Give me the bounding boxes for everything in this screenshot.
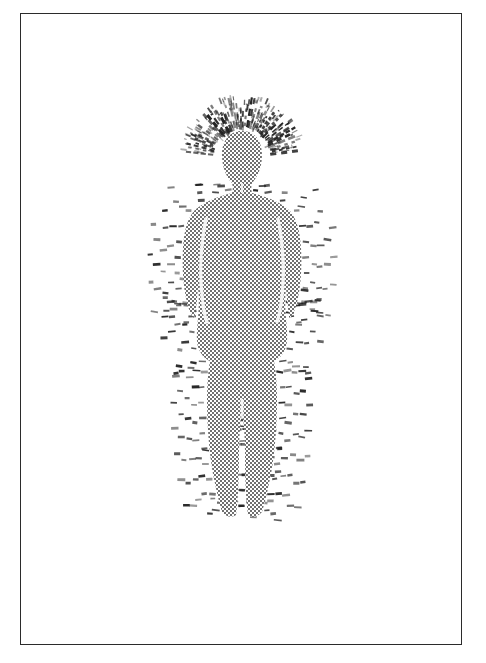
aura-dash	[310, 246, 316, 247]
aura-dash	[280, 200, 285, 201]
halo-speckle	[253, 129, 254, 132]
aura-dash	[317, 266, 323, 267]
aura-dash	[209, 494, 216, 495]
aura-dash	[276, 448, 282, 449]
halo-ray	[241, 106, 242, 130]
aura-dash	[317, 315, 324, 316]
aura-dash	[294, 393, 300, 394]
illustration-page	[0, 0, 486, 663]
aura-dash	[310, 282, 315, 283]
aura-dash	[280, 476, 286, 477]
halo-speckle	[208, 108, 211, 113]
aura-dash	[148, 254, 153, 255]
aura-dash	[185, 418, 191, 419]
aura-dash	[174, 373, 179, 374]
halo-speckle	[283, 150, 290, 151]
halo-speckle	[258, 97, 259, 100]
halo-speckle	[257, 126, 258, 128]
aura-dash	[182, 303, 187, 304]
aura-dash	[329, 227, 336, 228]
halo-speckle	[271, 106, 275, 112]
halo-speckle	[224, 97, 225, 100]
halo-speckle	[257, 100, 258, 104]
aura-dash	[181, 342, 189, 343]
halo-speckle	[197, 152, 204, 153]
halo-speckle	[222, 99, 223, 103]
halo-speckle	[194, 151, 199, 152]
aura-dash	[160, 250, 167, 251]
aura-dash	[303, 241, 309, 242]
aura-dash	[301, 290, 309, 291]
aura-dash	[189, 459, 196, 460]
aura-dash	[330, 257, 337, 258]
aura-dash	[177, 350, 182, 351]
aura-dash	[201, 448, 207, 449]
aura-dash	[288, 362, 293, 363]
halo-speckle	[187, 127, 193, 130]
halo-speckle	[233, 96, 234, 100]
aura-dash	[253, 190, 258, 191]
aura-dash	[300, 391, 306, 392]
aura-dash	[279, 433, 284, 434]
aura-dash	[286, 387, 292, 388]
halo-speckle	[189, 147, 191, 148]
aura-dash	[162, 293, 168, 294]
aura-dash	[177, 391, 183, 392]
halo-speckle	[230, 95, 231, 101]
aura-dash	[162, 210, 168, 211]
halo-speckle	[196, 119, 199, 122]
halo-speckle	[202, 144, 207, 146]
halo-speckle	[180, 149, 186, 150]
aura-dash	[195, 499, 201, 500]
aura-dash	[187, 438, 193, 439]
aura-dash	[201, 493, 206, 494]
aura-dash	[282, 495, 290, 496]
aura-dash	[330, 284, 337, 285]
aura-dash	[198, 476, 205, 477]
halo-speckle	[260, 125, 261, 128]
figure-svg	[0, 0, 486, 663]
halo-speckle	[219, 137, 223, 141]
halo-speckle	[296, 135, 302, 137]
aura-dash	[324, 239, 332, 240]
aura-dash	[289, 331, 294, 332]
aura-dash	[300, 414, 307, 415]
aura-dash	[238, 506, 243, 507]
aura-dash	[192, 440, 199, 441]
aura-dash	[189, 331, 194, 332]
aura-dash	[300, 482, 305, 483]
aura-dash	[172, 376, 180, 377]
aura-dash	[212, 510, 220, 511]
halo-speckle	[249, 100, 250, 104]
halo-speckle	[265, 129, 267, 131]
halo-speckle	[267, 108, 269, 111]
aura-dash	[274, 463, 280, 464]
halo-speckle	[270, 153, 273, 154]
aura-dash	[285, 422, 292, 423]
aura-dash	[284, 440, 290, 441]
aura-dash	[305, 373, 311, 374]
halo-speckle	[203, 150, 206, 151]
aura-dash	[190, 362, 196, 363]
aura-dash	[272, 479, 277, 480]
figure-illustration	[0, 0, 486, 663]
aura-dash	[304, 343, 309, 344]
aura-dash	[174, 324, 180, 325]
halo-speckle	[296, 139, 301, 141]
halo-speckle	[260, 97, 261, 101]
halo-speckle	[211, 151, 214, 152]
aura-dash	[192, 422, 197, 423]
aura-dash	[276, 371, 283, 372]
halo-speckle	[258, 119, 259, 122]
aura-dash	[299, 226, 306, 227]
halo-speckle	[292, 130, 297, 133]
aura-dash	[316, 288, 322, 289]
aura-dash	[154, 288, 161, 289]
aura-dash	[279, 361, 286, 362]
aura-dash	[279, 417, 286, 418]
aura-dash	[225, 189, 232, 190]
aura-dash	[306, 226, 313, 227]
halo-speckle	[291, 134, 293, 135]
aura-dash	[298, 436, 305, 437]
halo-speckle	[261, 112, 262, 114]
